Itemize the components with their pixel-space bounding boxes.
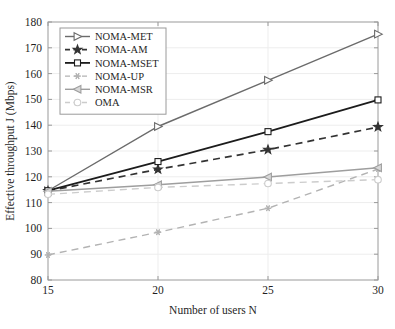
y-tick-label: 180 xyxy=(25,16,43,28)
data-point-marker xyxy=(155,159,161,165)
x-tick-label: 15 xyxy=(42,284,54,296)
x-axis-title: Number of users N xyxy=(169,304,258,316)
throughput-line-chart: 809010011012013014015016017018015202530N… xyxy=(0,0,395,329)
y-tick-label: 130 xyxy=(25,145,43,157)
y-tick-label: 170 xyxy=(25,42,43,54)
data-point-marker xyxy=(374,122,383,130)
legend-label: OMA xyxy=(95,97,120,108)
data-point-marker xyxy=(74,99,81,106)
y-tick-label: 100 xyxy=(25,222,43,234)
y-tick-label: 120 xyxy=(25,171,43,183)
data-point-marker xyxy=(75,60,81,66)
data-point-marker xyxy=(45,191,52,198)
series-line xyxy=(48,168,378,191)
y-tick-label: 110 xyxy=(25,197,42,209)
x-tick-label: 30 xyxy=(372,284,384,296)
series-oma xyxy=(45,176,382,197)
y-tick-label: 80 xyxy=(31,274,43,286)
legend: NOMA-METNOMA-AMNOMA-MSETNOMA-UPNOMA-MSRO… xyxy=(60,28,166,114)
x-tick-label: 20 xyxy=(152,284,164,296)
series-noma-msr xyxy=(44,164,382,195)
x-tick-label: 25 xyxy=(262,284,274,296)
y-tick-label: 150 xyxy=(25,93,43,105)
figure-container: 809010011012013014015016017018015202530N… xyxy=(0,0,395,329)
data-point-marker xyxy=(264,145,273,153)
y-tick-label: 140 xyxy=(25,119,43,131)
data-point-marker xyxy=(265,180,272,187)
y-tick-label: 160 xyxy=(25,68,43,80)
data-point-marker xyxy=(155,184,162,191)
data-point-marker xyxy=(375,176,382,183)
legend-label: NOMA-MET xyxy=(95,31,153,42)
series-noma-am xyxy=(44,122,383,194)
y-tick-label: 90 xyxy=(31,248,43,260)
legend-label: NOMA-MSET xyxy=(95,58,159,69)
data-point-marker xyxy=(154,165,163,173)
legend-label: NOMA-AM xyxy=(95,44,148,55)
series-noma-up xyxy=(45,166,381,257)
y-axis-title: Effective throughput J (Mbps) xyxy=(4,81,17,221)
legend-label: NOMA-MSR xyxy=(95,84,153,95)
legend-label: NOMA-UP xyxy=(95,71,144,82)
data-point-marker xyxy=(375,97,381,103)
data-point-marker xyxy=(265,129,271,135)
